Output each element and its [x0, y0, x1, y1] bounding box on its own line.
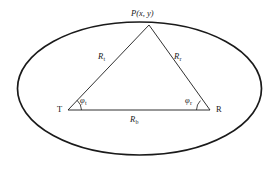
side-label-receiver-range: Rr: [174, 52, 181, 61]
angle-label-receiver: φr: [185, 96, 192, 105]
angle-label-transmitter: φt: [80, 96, 86, 105]
side-label-baseline-range: Rb: [130, 115, 138, 124]
side-label-transmitter-range: Rt: [98, 52, 105, 61]
iso-range-ellipse: [18, 22, 262, 155]
side-baseline-subscript: b: [135, 119, 138, 125]
apex-point-text: P(x, y): [131, 8, 154, 18]
apex-point-label: P(x, y): [131, 9, 154, 18]
angle-receiver-symbol: φ: [185, 95, 190, 105]
side-transmitter-subscript: t: [103, 56, 105, 62]
bistatic-geometry-figure: P(x, y) T R Rt Rr Rb φt φr: [0, 0, 280, 169]
angle-transmitter-subscript: t: [85, 100, 87, 106]
angle-receiver-subscript: r: [190, 100, 192, 106]
vertex-transmitter-text: T: [57, 104, 62, 114]
diagram-canvas: [0, 0, 280, 169]
receiver-angle-arc: [197, 101, 201, 110]
vertex-receiver-text: R: [216, 104, 222, 114]
angle-transmitter-symbol: φ: [80, 95, 85, 105]
receiver-range-line: [149, 25, 210, 110]
vertex-label-receiver: R: [216, 105, 222, 114]
vertex-label-transmitter: T: [57, 105, 62, 114]
